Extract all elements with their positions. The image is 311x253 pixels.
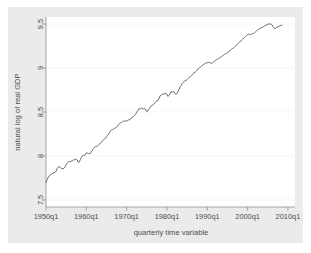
x-tick-label: 1960q1 bbox=[74, 212, 99, 221]
y-tick-label: 8 bbox=[36, 154, 45, 158]
x-axis-tickmarks bbox=[46, 207, 288, 211]
y-axis-tick-labels: 7.588.599.5 bbox=[36, 19, 45, 205]
x-tick-label: 2010q1 bbox=[276, 212, 301, 221]
y-tick-label: 8.5 bbox=[36, 107, 45, 117]
y-tick-label: 9.5 bbox=[36, 19, 45, 29]
y-axis-title: natural log of real GDP bbox=[13, 73, 22, 150]
x-tick-label: 2000q1 bbox=[235, 212, 260, 221]
x-tick-label: 1950q1 bbox=[34, 212, 59, 221]
figure-background: 7.588.599.5 1950q11960q11970q11980q11990… bbox=[8, 7, 303, 243]
x-tick-label: 1980q1 bbox=[155, 212, 180, 221]
x-axis-title: quarterly time variable bbox=[134, 228, 209, 237]
y-tick-label: 7.5 bbox=[36, 195, 45, 205]
gdp-line-chart: 7.588.599.5 1950q11960q11970q11980q11990… bbox=[8, 7, 303, 243]
x-axis-tick-labels: 1950q11960q11970q11980q11990q12000q12010… bbox=[34, 212, 301, 221]
y-tick-label: 9 bbox=[36, 66, 45, 70]
x-tick-label: 1970q1 bbox=[114, 212, 139, 221]
x-tick-label: 1990q1 bbox=[195, 212, 220, 221]
chart-container: 7.588.599.5 1950q11960q11970q11980q11990… bbox=[8, 7, 303, 243]
